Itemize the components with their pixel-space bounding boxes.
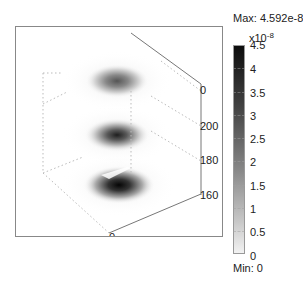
slice-top-blob [85, 64, 149, 98]
scale-exponent: -8 [267, 31, 274, 40]
colorbar-tick [233, 231, 245, 232]
colorbar-tick [233, 92, 245, 93]
slice-middle-blob [84, 118, 150, 152]
axis-tick-label-200: 200 [200, 121, 218, 132]
colorbar-tick [233, 68, 245, 69]
min-value-label: Min: 0 [233, 263, 263, 274]
bottom-axis-tick-label-0: 0 [109, 232, 115, 237]
colorbar-tick [233, 161, 245, 162]
axis-tick-label-180: 180 [200, 155, 218, 166]
colorbar-tick [233, 138, 245, 139]
colorbar-tick [233, 208, 245, 209]
colorbar-tick-label: 3.5 [250, 88, 265, 99]
colorbar-tick [233, 185, 245, 186]
max-value-label: Max: 4.592e-8 [233, 13, 303, 24]
colorbar-tick-label: 3 [250, 111, 256, 122]
colorbar-tick-label: 4.5 [250, 40, 265, 51]
colorbar-tick-label: 2.5 [250, 134, 265, 145]
plot-area[interactable]: 0 200 180 160 0 [15, 26, 223, 237]
colorbar-tick [233, 115, 245, 116]
colorbar-tick-label: 2 [250, 157, 256, 168]
colorbar-tick-label: 1 [250, 204, 256, 215]
slice-plot-graphic [16, 27, 223, 237]
colorbar-tick-label: 1.5 [250, 181, 265, 192]
axis-tick-label-0: 0 [200, 85, 206, 96]
axis-tick-label-160: 160 [200, 190, 218, 201]
colorbar-tick-label: 4 [250, 64, 256, 75]
colorbar [233, 45, 245, 254]
colorbar-tick-label: 0 [250, 251, 256, 262]
colorbar-tick-label: 0.5 [250, 227, 265, 238]
